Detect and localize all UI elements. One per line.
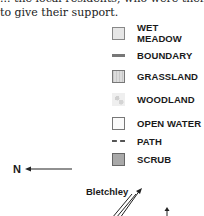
legend-label: BOUNDARY: [137, 50, 192, 61]
road-to-bletchley-icon: [108, 188, 148, 216]
legend-item-wet-meadow: WET MEADOW: [112, 25, 204, 41]
scrub-swatch-icon: [112, 153, 125, 166]
legend-item-boundary: BOUNDARY: [112, 47, 192, 63]
legend-item-open-water: OPEN WATER: [112, 115, 201, 131]
north-arrow-icon: [25, 165, 73, 173]
legend-label: WOODLAND: [137, 94, 195, 105]
grassland-swatch-icon: [112, 70, 125, 83]
legend-item-woodland: WOODLAND: [112, 91, 195, 107]
open-water-swatch-icon: [112, 117, 125, 130]
legend-item-grassland: GRASSLAND: [112, 68, 198, 84]
small-arrow-icon: [163, 207, 171, 216]
boundary-line-icon: [112, 54, 125, 57]
legend-label: WET MEADOW: [137, 22, 204, 44]
wet-meadow-swatch-icon: [112, 27, 125, 40]
woodland-swatch-icon: [112, 93, 125, 106]
legend-label: GRASSLAND: [137, 71, 198, 82]
legend-label: OPEN WATER: [137, 118, 201, 129]
legend-item-path: PATH: [112, 133, 162, 149]
legend-label: PATH: [137, 136, 162, 147]
prose-line-1: ... the local residents, who were then a…: [0, 0, 204, 5]
north-indicator: N: [13, 163, 73, 175]
prose-line-2: to give their support.: [0, 6, 118, 19]
north-label: N: [13, 163, 21, 175]
legend-label: SCRUB: [137, 154, 171, 165]
legend-item-scrub: SCRUB: [112, 151, 171, 167]
path-dashed-line-icon: [112, 140, 125, 142]
